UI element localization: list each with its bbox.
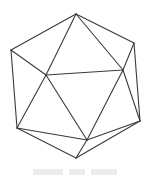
edge-A-D bbox=[46, 14, 76, 75]
icosahedron-diagram bbox=[0, 0, 154, 175]
caption-word bbox=[69, 169, 85, 175]
figure-caption bbox=[33, 169, 119, 175]
edge-D-E bbox=[46, 70, 123, 75]
icosahedron-edges bbox=[11, 14, 140, 158]
edge-B-D bbox=[11, 50, 46, 75]
caption-word bbox=[91, 169, 117, 175]
caption-word bbox=[33, 169, 63, 175]
edge-B-F bbox=[11, 50, 17, 128]
edge-A-B bbox=[11, 14, 76, 50]
edge-E-G bbox=[123, 70, 140, 121]
edge-C-E bbox=[123, 43, 134, 70]
edge-D-F bbox=[17, 75, 46, 128]
edge-F-H bbox=[17, 128, 87, 140]
edge-D-H bbox=[46, 75, 87, 140]
edge-C-G bbox=[134, 43, 140, 121]
edge-A-C bbox=[76, 14, 134, 43]
edge-A-E bbox=[76, 14, 123, 70]
